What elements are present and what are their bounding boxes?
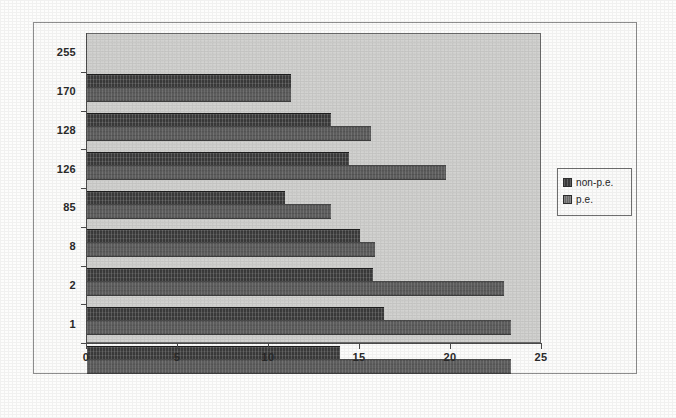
chart-figure: 0510152025 25517012812685821 non-p.e. p.…	[0, 0, 676, 418]
x-axis-tick	[541, 344, 542, 349]
y-axis-tick	[81, 266, 86, 267]
chart-legend: non-p.e. p.e.	[557, 168, 632, 216]
plot-area	[86, 33, 541, 343]
y-axis-tick-label: 8	[20, 240, 76, 252]
bar-p-e--126	[87, 204, 331, 219]
y-axis-tick	[81, 72, 86, 73]
x-axis-tick-label: 15	[339, 351, 379, 363]
legend-label-non-pe: non-p.e.	[576, 177, 614, 188]
x-axis-tick	[268, 344, 269, 349]
bar-p-e--170	[87, 126, 371, 141]
legend-item-pe: p.e.	[563, 191, 627, 208]
x-axis-tick	[359, 344, 360, 349]
x-axis-tick	[177, 344, 178, 349]
y-axis-tick-label: 2	[20, 279, 76, 291]
y-axis-tick	[81, 343, 86, 344]
x-axis-tick-label: 25	[521, 351, 561, 363]
legend-item-non-pe: non-p.e.	[563, 174, 627, 191]
y-axis-tick-label: 255	[20, 46, 76, 58]
x-axis-tick-label: 0	[66, 351, 106, 363]
y-axis-tick-label: 1	[20, 318, 76, 330]
x-axis-tick-label: 5	[157, 351, 197, 363]
bar-p-e--85	[87, 242, 375, 257]
y-axis-tick-label: 85	[20, 201, 76, 213]
y-axis-tick-label: 170	[20, 85, 76, 97]
y-axis-tick	[81, 188, 86, 189]
y-axis-line	[86, 33, 87, 344]
bar-p-e--2	[87, 320, 511, 335]
y-axis-tick	[81, 149, 86, 150]
x-axis-line	[86, 343, 542, 344]
x-axis-tick	[450, 344, 451, 349]
y-axis-tick-label: 126	[20, 163, 76, 175]
y-axis-tick	[81, 227, 86, 228]
x-axis-tick	[86, 344, 87, 349]
bar-p-e--8	[87, 281, 504, 296]
x-axis-tick-label: 20	[430, 351, 470, 363]
legend-swatch-pe	[563, 195, 572, 204]
legend-swatch-non-pe	[563, 178, 572, 187]
bar-p-e--255	[87, 87, 291, 102]
bar-p-e--128	[87, 165, 446, 180]
legend-label-pe: p.e.	[576, 194, 593, 205]
y-axis-tick	[81, 304, 86, 305]
y-axis-tick-label: 128	[20, 124, 76, 136]
y-axis-tick	[81, 111, 86, 112]
x-axis-tick-label: 10	[248, 351, 288, 363]
